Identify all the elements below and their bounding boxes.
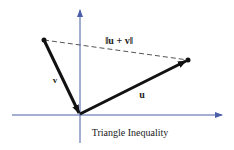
caption: Triangle Inequality [92,127,169,138]
vector-v [44,40,79,113]
triangle-inequality-diagram: ‖u + v‖ v u Triangle Inequality [0,0,234,150]
label-v: v [53,75,58,85]
point-u-head [186,58,191,63]
vector-u [80,61,186,114]
label-sum-norm: ‖u + v‖ [105,35,133,46]
label-u: u [139,89,145,100]
point-v-tail [42,38,47,43]
